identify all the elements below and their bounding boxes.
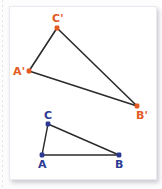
triangle-edge-CpAp (29, 28, 57, 71)
triangle-diagram-canvas (0, 0, 162, 189)
vertex-label-A: A (38, 159, 47, 170)
triangle-edge-CB (48, 124, 119, 155)
vertex-label-A-prime: A' (13, 66, 25, 77)
vertex-point-A (40, 153, 45, 158)
vertex-label-C: C (44, 110, 52, 121)
triangle-edge-CA (42, 124, 48, 155)
vertex-point-A-prime (27, 69, 32, 74)
vertex-label-B: B (115, 159, 124, 170)
triangle-edge-ApBp (29, 71, 137, 106)
preimage-triangle (40, 122, 122, 158)
vertex-point-C (46, 122, 51, 127)
vertex-label-B-prime: B' (136, 110, 148, 121)
vertex-point-C-prime (55, 26, 60, 31)
image-triangle (27, 26, 140, 109)
vertex-point-B (117, 153, 122, 158)
triangle-edge-CpBp (57, 28, 137, 106)
figure-root: C'A'B'CAB (0, 0, 162, 189)
vertex-point-B-prime (135, 104, 140, 109)
vertex-label-C-prime: C' (52, 13, 64, 24)
